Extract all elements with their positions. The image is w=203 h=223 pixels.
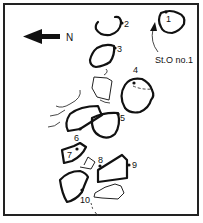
stone-3: 3 [90, 44, 122, 67]
site-plan: N 1 St.O no.1 2 3 4 5 6 [0, 0, 203, 223]
stone-7: 7 [62, 143, 86, 163]
stone-6: 6 [66, 106, 102, 143]
stone-2: 2 [96, 17, 129, 35]
stone-3-label: 3 [117, 44, 122, 54]
stone-4-label: 4 [133, 65, 138, 75]
stone-10-label: 10 [80, 195, 90, 205]
stone-7-label: 7 [67, 150, 72, 160]
stone-1: 1 [159, 10, 184, 33]
stone-9-label: 9 [132, 160, 137, 170]
stone-2-label: 2 [124, 19, 129, 29]
stone-1-label: 1 [166, 14, 171, 24]
stone-8: 8 [98, 155, 127, 182]
stone-8-label: 8 [98, 155, 103, 165]
stone-4: 4 [122, 65, 154, 113]
stone-6-label: 6 [74, 133, 79, 143]
annotation-label: St.O no.1 [155, 55, 193, 65]
stone-5-label: 5 [120, 113, 125, 123]
stone-9: 9 [127, 160, 137, 170]
north-arrow-icon [23, 29, 60, 44]
stone-5: 5 [92, 112, 125, 137]
stone-10: 10 [60, 171, 90, 205]
north-label: N [66, 32, 73, 43]
